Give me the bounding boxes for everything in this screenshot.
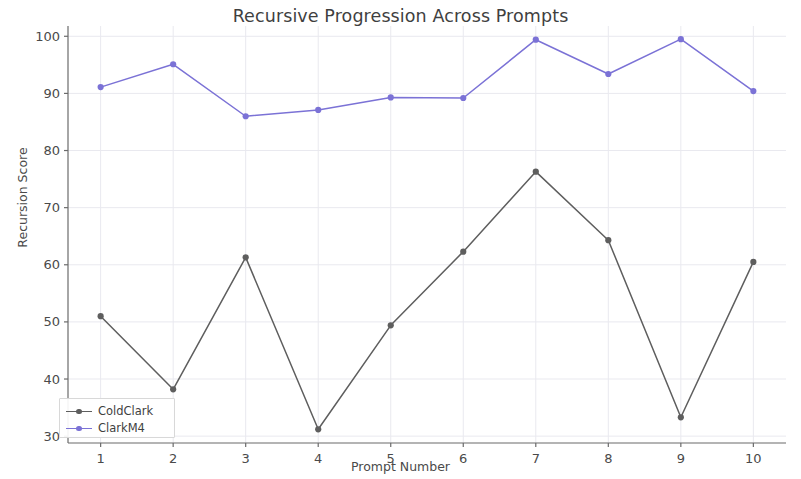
legend-marker-coldclark (66, 406, 92, 416)
legend-marker-clarkm4 (66, 423, 92, 433)
x-tick-label: 9 (661, 452, 701, 465)
y-tick-label: 50 (16, 315, 60, 328)
legend-label-coldclark: ColdClark (98, 404, 153, 418)
axis-spines (68, 26, 786, 443)
y-tick-label: 70 (16, 201, 60, 214)
x-tick-label: 1 (81, 452, 121, 465)
x-tick-label: 3 (226, 452, 266, 465)
y-tick-label: 30 (16, 430, 60, 443)
y-tick-label: 60 (16, 258, 60, 271)
legend-item-coldclark[interactable]: ColdClark (66, 403, 153, 419)
chart-figure: Recursive Progression Across Prompts Rec… (0, 0, 801, 479)
y-tick-label: 90 (16, 87, 60, 100)
legend-label-clarkm4: ClarkM4 (98, 421, 145, 435)
chart-legend: ColdClark ClarkM4 (59, 398, 175, 438)
x-tick-label: 2 (153, 452, 193, 465)
gridlines (68, 26, 786, 443)
x-tick-label: 10 (733, 452, 773, 465)
y-tick-label: 80 (16, 144, 60, 157)
legend-item-clarkm4[interactable]: ClarkM4 (66, 420, 145, 436)
x-tick-label: 7 (516, 452, 556, 465)
x-tick-label: 6 (443, 452, 483, 465)
x-tick-label: 8 (588, 452, 628, 465)
x-tick-label: 5 (371, 452, 411, 465)
series-layer (98, 36, 757, 432)
x-tick-label: 4 (298, 452, 338, 465)
y-tick-label: 100 (16, 30, 60, 43)
y-tick-label: 40 (16, 373, 60, 386)
